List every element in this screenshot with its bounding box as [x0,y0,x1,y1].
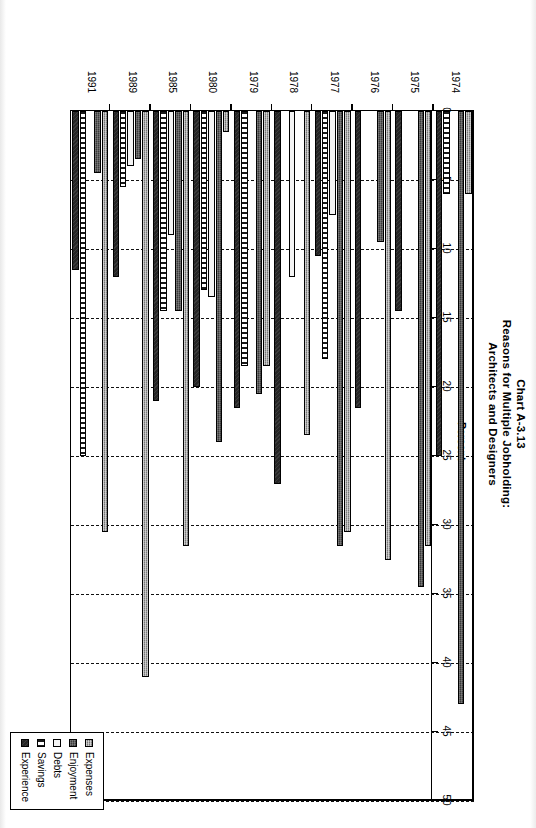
legend-swatch-experience-icon [22,739,30,747]
bar-expenses-1976 [385,111,391,560]
plot-frame [70,110,474,800]
year-label-1985: 1985 [167,58,178,106]
bar-debts-1977 [329,111,335,215]
bar-savings-1989 [120,111,126,187]
bar-debts-1978 [289,111,295,277]
bar-debts-1989 [127,111,133,166]
bar-debts-1980 [208,111,214,297]
bar-expenses-1991 [102,111,108,532]
group-separator [311,104,312,111]
legend-label: Enjoyment [68,752,79,799]
gridline [71,318,474,319]
group-separator [230,104,231,111]
chart-title-line-2: Reasons for Multiple Jobholding: [500,0,514,828]
bar-experience-1980 [193,111,199,387]
bar-expenses-1979 [263,111,269,366]
bar-enjoyment-1979 [256,111,262,394]
bar-enjoyment-1976 [377,111,383,242]
bar-experience-1974 [436,111,442,456]
year-label-1989: 1989 [127,58,138,106]
gridline [71,456,474,457]
bar-experience-1975 [395,111,401,311]
bar-expenses-1975 [425,111,431,546]
gridline [71,249,474,250]
bar-expenses-1989 [142,111,148,677]
group-separator [271,104,272,111]
legend-item-debts[interactable]: Debts [50,739,65,802]
year-label-1974: 1974 [450,58,461,106]
year-label-1979: 1979 [248,58,259,106]
plot-top-rule [473,110,475,800]
gridline [71,387,474,388]
bar-enjoyment-1974 [458,111,464,704]
legend-item-savings[interactable]: Savings [34,739,49,802]
legend-swatch-savings-icon [38,739,46,747]
chart-title-block: Chart A-3.13 Reasons for Multiple Jobhol… [486,0,528,828]
legend-swatch-debts-icon [54,739,62,747]
bar-expenses-1978 [304,111,310,435]
group-separator [190,104,191,111]
bar-experience-1979 [234,111,240,408]
bar-savings-1985 [160,111,166,311]
bar-experience-1977 [315,111,321,256]
bar-expenses-1974 [465,111,471,194]
group-separator [149,104,150,111]
year-label-1977: 1977 [329,58,340,106]
year-label-1975: 1975 [409,58,420,106]
gridline [71,180,474,181]
scanned-page: Chart A-3.13 Reasons for Multiple Jobhol… [0,0,536,828]
bar-enjoyment-1989 [135,111,141,159]
year-label-1980: 1980 [207,58,218,106]
bar-experience-1985 [153,111,159,401]
bar-experience-1989 [113,111,119,277]
bar-experience-1976 [355,111,361,408]
bar-enjoyment-1977 [337,111,343,546]
bar-savings-1979 [241,111,247,366]
bar-enjoyment-1985 [175,111,181,311]
legend: ExpensesEnjoymentDebtsSavingsExperience [10,732,104,810]
year-label-1991: 1991 [86,58,97,106]
bar-savings-1991 [80,111,86,456]
gridline [71,801,474,802]
group-separator [109,104,110,111]
bar-savings-1977 [322,111,328,359]
bar-experience-1991 [72,111,78,270]
bar-expenses-1980 [223,111,229,132]
bar-experience-1978 [274,111,280,484]
legend-item-experience[interactable]: Experience [18,739,33,802]
year-label-1976: 1976 [369,58,380,106]
gridline [71,594,474,595]
bar-expenses-1977 [344,111,350,532]
group-separator [351,104,352,111]
legend-label: Debts [52,752,63,778]
gridline [71,525,474,526]
legend-item-expenses[interactable]: Expenses [82,739,97,802]
bar-savings-1980 [201,111,207,290]
gridline [71,663,474,664]
legend-label: Savings [36,752,47,788]
chart-title-line-1: Chart A-3.13 [514,0,528,828]
bar-expenses-1985 [183,111,189,546]
group-separator [392,104,393,111]
legend-item-enjoyment[interactable]: Enjoyment [66,739,81,802]
bar-enjoyment-1980 [216,111,222,442]
chart-canvas: Chart A-3.13 Reasons for Multiple Jobhol… [0,0,536,828]
year-label-1978: 1978 [288,58,299,106]
legend-swatch-expenses-icon [86,739,94,747]
plot-area: Percent 05101520253035404550 19741975197… [42,58,474,800]
bar-enjoyment-1975 [418,111,424,587]
bar-enjoyment-1991 [94,111,100,173]
plot-right-rule [70,799,474,801]
gridline [71,732,474,733]
chart-title-line-3: Architects and Designers [486,0,500,828]
legend-label: Experience [20,752,31,802]
legend-swatch-enjoyment-icon [70,739,78,747]
bar-debts-1985 [168,111,174,235]
legend-label: Expenses [84,752,95,796]
group-separator [432,104,433,111]
bar-savings-1974 [443,111,449,194]
